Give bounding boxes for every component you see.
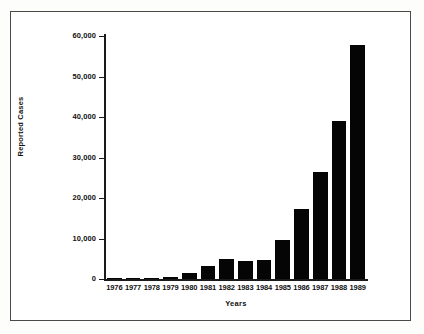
bar [201, 266, 216, 279]
y-axis-tick-label: 10,000 [36, 235, 96, 243]
chart-figure: 010,00020,00030,00040,00050,00060,000 Re… [0, 0, 424, 334]
bar [144, 278, 159, 279]
bar [294, 209, 309, 279]
bar [126, 278, 141, 279]
bar-series [105, 36, 367, 279]
y-axis-tick-label: 0 [36, 275, 96, 283]
bar [238, 261, 253, 279]
bar [332, 121, 347, 279]
y-axis-tick-label: 30,000 [36, 154, 96, 162]
x-axis-tick-label: 1989 [347, 283, 369, 292]
x-axis-title: Years [104, 299, 368, 308]
bar [313, 172, 328, 279]
x-axis-line [104, 279, 368, 281]
x-axis-tick-labels: 1976197719781979198019811982198319841985… [105, 283, 367, 295]
y-axis-tick-label: 20,000 [36, 194, 96, 202]
y-axis-tick-label: 60,000 [36, 32, 96, 40]
bar [219, 259, 234, 279]
bar [350, 45, 365, 279]
bar [257, 260, 272, 279]
y-axis-tick-label: 50,000 [36, 73, 96, 81]
y-axis-tick [99, 279, 105, 280]
bar [182, 273, 197, 279]
y-axis-title: Reported Cases [16, 79, 25, 175]
bar [107, 278, 122, 279]
bar [163, 277, 178, 279]
bar [275, 240, 290, 279]
y-axis-tick-label: 40,000 [36, 113, 96, 121]
